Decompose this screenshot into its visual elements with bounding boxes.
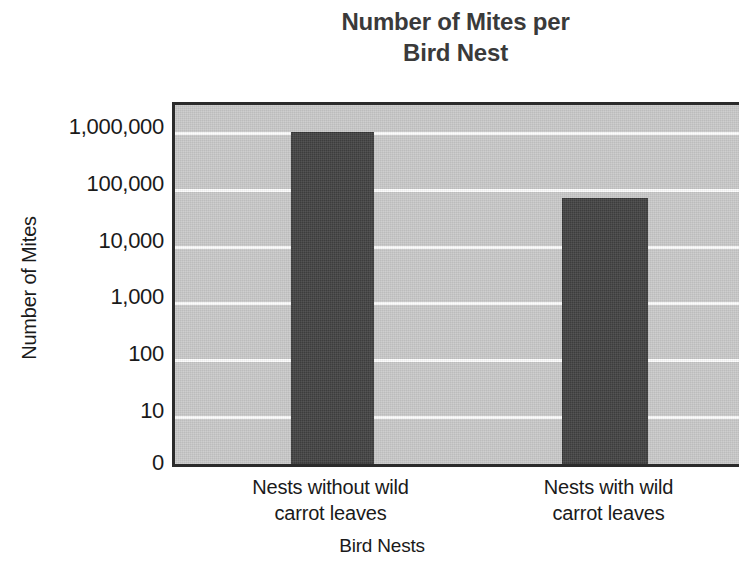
chart-figure: Number of Mites per Bird Nest 1,000,000 …	[0, 0, 739, 570]
plot-texture-overlay	[175, 105, 739, 464]
bar-nests-with-wild-carrot-leaves	[562, 198, 648, 464]
x-axis-title: Bird Nests	[172, 534, 592, 558]
y-tick-label-0: 0	[4, 452, 164, 474]
gridline-10	[175, 416, 739, 419]
bar-nests-without-wild-carrot-leaves	[291, 132, 374, 464]
gridline-10000	[175, 246, 739, 249]
chart-title: Number of Mites per Bird Nest	[172, 6, 739, 68]
x-tick-label-nests-without-wild-carrot-leaves: Nests without wild carrot leaves	[188, 474, 473, 526]
y-axis-title: Number of Mites	[19, 183, 39, 393]
gridline-100	[175, 359, 739, 362]
y-tick-label-10: 10	[4, 400, 164, 422]
gridline-100000	[175, 189, 739, 192]
gridline-1000	[175, 302, 739, 305]
gridline-1000000	[175, 132, 739, 135]
y-tick-label-1000000: 1,000,000	[4, 116, 164, 138]
x-tick-label-nests-with-wild-carrot-leaves: Nests with wild carrot leaves	[478, 474, 739, 526]
plot-area	[172, 102, 739, 467]
